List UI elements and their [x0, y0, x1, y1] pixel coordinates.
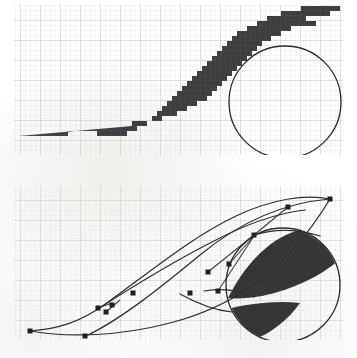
vector-panel [14, 186, 352, 344]
control-point[interactable] [286, 205, 291, 210]
raster-grid-bleed [14, 5, 343, 155]
raster-vs-vector-figure [0, 0, 357, 358]
control-point[interactable] [188, 291, 193, 296]
control-point[interactable] [104, 310, 109, 315]
control-point[interactable] [83, 334, 88, 339]
raster-panel [14, 5, 343, 158]
control-point[interactable] [206, 270, 211, 275]
control-point[interactable] [328, 197, 333, 202]
control-point[interactable] [110, 303, 115, 308]
control-point[interactable] [216, 289, 221, 294]
control-point[interactable] [96, 306, 101, 311]
control-point[interactable] [131, 291, 136, 296]
control-point[interactable] [28, 329, 33, 334]
